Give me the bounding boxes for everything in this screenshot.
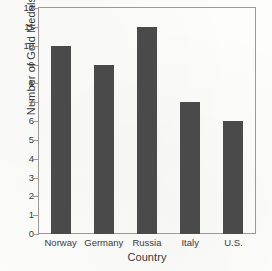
bar-chart-figure: Number of Gold Medals 0123456789101112 N…: [0, 0, 272, 271]
bar: [137, 27, 157, 234]
bar: [223, 121, 243, 234]
y-axis-tick-label: 9: [14, 60, 34, 70]
y-axis-tick-label: 1: [14, 210, 34, 220]
bar: [51, 46, 71, 234]
y-axis-tick-label: 11: [14, 22, 34, 32]
x-axis-tick-label: U.S.: [202, 237, 264, 249]
y-axis-tick-label: 6: [14, 116, 34, 126]
y-axis-tick-label: 7: [14, 97, 34, 107]
x-axis-tick-labels: NorwayGermanyRussiaItalyU.S.: [39, 237, 255, 250]
bar: [180, 102, 200, 234]
bar: [94, 65, 114, 235]
y-axis-tick-label: 2: [14, 192, 34, 202]
bar-series: [39, 8, 255, 234]
x-axis-title: Country: [38, 251, 256, 263]
y-axis-tick-label: 4: [14, 154, 34, 164]
y-axis-tick-label: 5: [14, 135, 34, 145]
y-axis-tick-label: 10: [14, 41, 34, 51]
y-axis-tick-label: 12: [14, 3, 34, 13]
y-axis-tick-labels: 0123456789101112: [14, 0, 34, 271]
y-axis-tick-label: 8: [14, 79, 34, 89]
y-axis-tick-label: 3: [14, 173, 34, 183]
